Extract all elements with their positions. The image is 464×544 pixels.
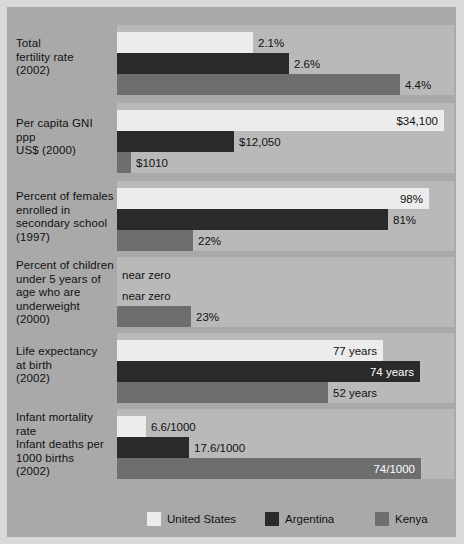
bar-value-label: $1010 — [136, 157, 168, 169]
bar-ke[interactable] — [117, 230, 193, 251]
legend-item[interactable]: Kenya — [375, 512, 428, 526]
bar-group: near zeronear zero23% — [117, 257, 454, 327]
bar-row: $12,050 — [117, 131, 454, 152]
bar-group: 77 years74 years52 years — [117, 333, 454, 403]
bar-ar[interactable] — [117, 209, 388, 230]
bar-row: 98% — [117, 188, 454, 209]
bar-row: near zero — [117, 285, 454, 306]
category-label-line: (1997) — [16, 231, 120, 245]
bar-value-label: 52 years — [333, 387, 377, 399]
bar-row: 17.6/1000 — [117, 437, 454, 458]
bar-row: $34,100 — [117, 110, 454, 131]
bar-value-label: 4.4% — [405, 79, 431, 91]
category-label-column: Totalfertility rate(2002)Per capita GNIp… — [7, 7, 117, 537]
legend-swatch-us — [147, 512, 161, 526]
category-label-line: fertility rate — [16, 51, 120, 65]
bar-ke[interactable] — [117, 74, 400, 95]
bar-group: $34,100$12,050$1010 — [117, 103, 454, 173]
category-label: Percent of childrenunder 5 years ofage w… — [16, 259, 120, 327]
category-label-line: underweight — [16, 300, 120, 314]
category-label-line: US$ (2000) — [16, 144, 120, 158]
category-label-line: at birth — [16, 359, 120, 373]
bar-value-label: 17.6/1000 — [194, 442, 245, 454]
bar-row: 23% — [117, 306, 454, 327]
legend-swatch-ar — [265, 512, 279, 526]
bar-row: 81% — [117, 209, 454, 230]
category-label-line: Per capita GNI — [16, 117, 120, 131]
category-label-line: Percent of children — [16, 259, 120, 273]
category-label-line: secondary school — [16, 217, 120, 231]
bar-value-label: 23% — [196, 311, 219, 323]
bar-row: $1010 — [117, 152, 454, 173]
legend-label: United States — [167, 513, 236, 525]
bar-us[interactable] — [117, 416, 146, 437]
category-label-line: under 5 years of — [16, 273, 120, 287]
category-label-line: Infant deaths per — [16, 438, 120, 452]
category-label: Infant mortalityrateInfant deaths per100… — [16, 411, 120, 479]
category-label-line: (2002) — [16, 465, 120, 479]
bar-ar[interactable] — [117, 437, 189, 458]
bar-group: 2.1%2.6%4.4% — [117, 25, 454, 95]
legend-label: Argentina — [285, 513, 334, 525]
bar-value-label: 81% — [393, 214, 416, 226]
category-label: Percent of femalesenrolled insecondary s… — [16, 190, 120, 244]
legend-label: Kenya — [395, 513, 428, 525]
bar-value-label: 6.6/1000 — [151, 421, 196, 433]
bar-row: 74 years — [117, 361, 454, 382]
legend-item[interactable]: Argentina — [265, 512, 334, 526]
bar-ke[interactable] — [117, 306, 191, 327]
bar-row: 2.1% — [117, 32, 454, 53]
bar-value-label: 22% — [198, 235, 221, 247]
category-label-line: (2002) — [16, 372, 120, 386]
bar-value-label: 74/1000 — [373, 463, 415, 475]
bar-row: 77 years — [117, 340, 454, 361]
bar-ar[interactable] — [117, 53, 289, 74]
category-label-line: rate — [16, 425, 120, 439]
bar-row: 52 years — [117, 382, 454, 403]
bar-group: 6.6/100017.6/100074/1000 — [117, 409, 454, 479]
category-label-line: ppp — [16, 131, 120, 145]
category-label-line: (2002) — [16, 64, 120, 78]
legend-swatch-ke — [375, 512, 389, 526]
category-label-line: Life expectancy — [16, 345, 120, 359]
category-label-line: Infant mortality — [16, 411, 120, 425]
bar-value-label: 2.6% — [294, 58, 320, 70]
legend-item[interactable]: United States — [147, 512, 236, 526]
category-label: Life expectancyat birth(2002) — [16, 345, 120, 386]
bar-ke[interactable] — [117, 152, 131, 173]
bar-value-label: 98% — [400, 193, 423, 205]
bar-value-label: $34,100 — [396, 115, 438, 127]
category-label-line: Percent of females — [16, 190, 120, 204]
bar-row: 2.6% — [117, 53, 454, 74]
bar-ke[interactable] — [117, 382, 328, 403]
bar-us[interactable] — [117, 32, 253, 53]
bar-row: 74/1000 — [117, 458, 454, 479]
bar-value-label: near zero — [122, 290, 171, 302]
chart-legend: United StatesArgentinaKenya — [7, 507, 456, 531]
bar-us[interactable] — [117, 188, 429, 209]
category-label-line: enrolled in — [16, 204, 120, 218]
bar-value-label: $12,050 — [239, 136, 281, 148]
plot-area: 2.1%2.6%4.4%$34,100$12,050$101098%81%22%… — [117, 7, 456, 537]
bar-ar[interactable] — [117, 131, 234, 152]
category-label-line: Total — [16, 37, 120, 51]
bar-value-label: near zero — [122, 269, 171, 281]
bar-row: near zero — [117, 264, 454, 285]
bar-value-label: 74 years — [370, 366, 414, 378]
category-label-line: 1000 births — [16, 452, 120, 466]
bar-us[interactable] — [117, 110, 444, 131]
bar-row: 4.4% — [117, 74, 454, 95]
bar-group: 98%81%22% — [117, 181, 454, 251]
category-label-line: (2000) — [16, 313, 120, 327]
bar-row: 6.6/1000 — [117, 416, 454, 437]
category-label-line: age who are — [16, 286, 120, 300]
bar-value-label: 2.1% — [258, 37, 284, 49]
bar-row: 22% — [117, 230, 454, 251]
chart-frame: Totalfertility rate(2002)Per capita GNIp… — [7, 7, 456, 537]
category-label: Per capita GNIpppUS$ (2000) — [16, 117, 120, 158]
category-label: Totalfertility rate(2002) — [16, 37, 120, 78]
bar-value-label: 77 years — [333, 345, 377, 357]
